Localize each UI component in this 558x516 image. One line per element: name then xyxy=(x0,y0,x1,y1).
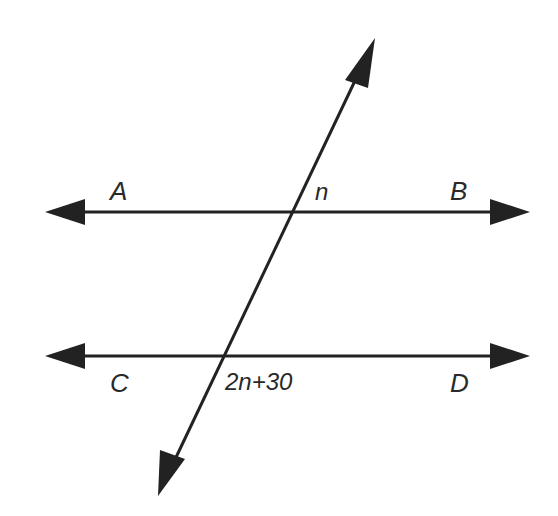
line-cd xyxy=(45,343,530,369)
label-a: A xyxy=(108,176,127,206)
arrowhead-left-icon xyxy=(45,199,85,225)
arrowhead-left-icon xyxy=(45,343,85,369)
angle-label-n: n xyxy=(315,178,328,205)
transversal xyxy=(158,38,375,496)
label-c: C xyxy=(110,368,129,398)
arrowhead-down-icon xyxy=(158,450,185,496)
diagram-canvas: A B C D n 2n+30 xyxy=(0,0,558,516)
angle-label-2n-plus-30: 2n+30 xyxy=(224,368,293,395)
label-d: D xyxy=(450,368,469,398)
arrowhead-right-icon xyxy=(490,343,530,369)
arrowhead-right-icon xyxy=(490,199,530,225)
arrowhead-up-icon xyxy=(345,38,375,88)
label-b: B xyxy=(450,176,467,206)
